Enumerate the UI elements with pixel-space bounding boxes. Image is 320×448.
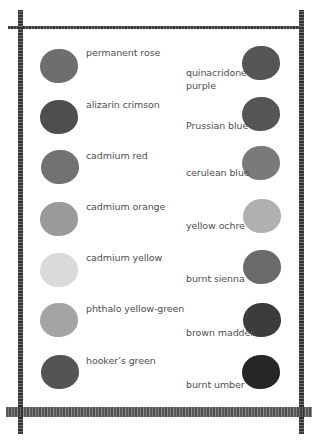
swatch-label: quinacridone purple	[186, 66, 246, 92]
frame-left-line	[18, 10, 23, 434]
paint-swatch	[242, 355, 280, 389]
paint-swatch	[243, 250, 281, 284]
swatch-label: permanent rose	[86, 46, 160, 59]
swatch-label: cadmium yellow	[86, 251, 162, 264]
swatch-label: cadmium orange	[86, 200, 165, 213]
frame-bottom-line	[6, 407, 312, 417]
swatch-label: cadmium red	[86, 149, 148, 162]
paint-swatch	[40, 49, 78, 83]
swatch-label: phthalo yellow-green	[86, 302, 184, 315]
swatch-label: alizarin crimson	[86, 98, 160, 111]
paint-swatch	[41, 355, 79, 389]
frame-right-line	[299, 10, 304, 434]
paint-swatch	[242, 46, 280, 80]
paint-swatch	[40, 202, 78, 236]
swatch-label: brown madder	[186, 326, 254, 339]
swatch-label: yellow ochre	[186, 219, 245, 232]
paint-swatch	[40, 100, 78, 134]
paint-swatch	[40, 303, 78, 337]
swatch-label: burnt sienna	[186, 272, 245, 285]
frame-top-line	[8, 26, 304, 29]
paint-swatch	[41, 150, 79, 184]
swatch-label: burnt umber	[186, 378, 245, 391]
paint-swatch	[243, 199, 281, 233]
paint-swatch	[40, 253, 78, 287]
swatch-label: cerulean blue	[186, 166, 250, 179]
swatch-label: Prussian blue	[186, 119, 248, 132]
swatch-label: hooker’s green	[86, 354, 156, 367]
